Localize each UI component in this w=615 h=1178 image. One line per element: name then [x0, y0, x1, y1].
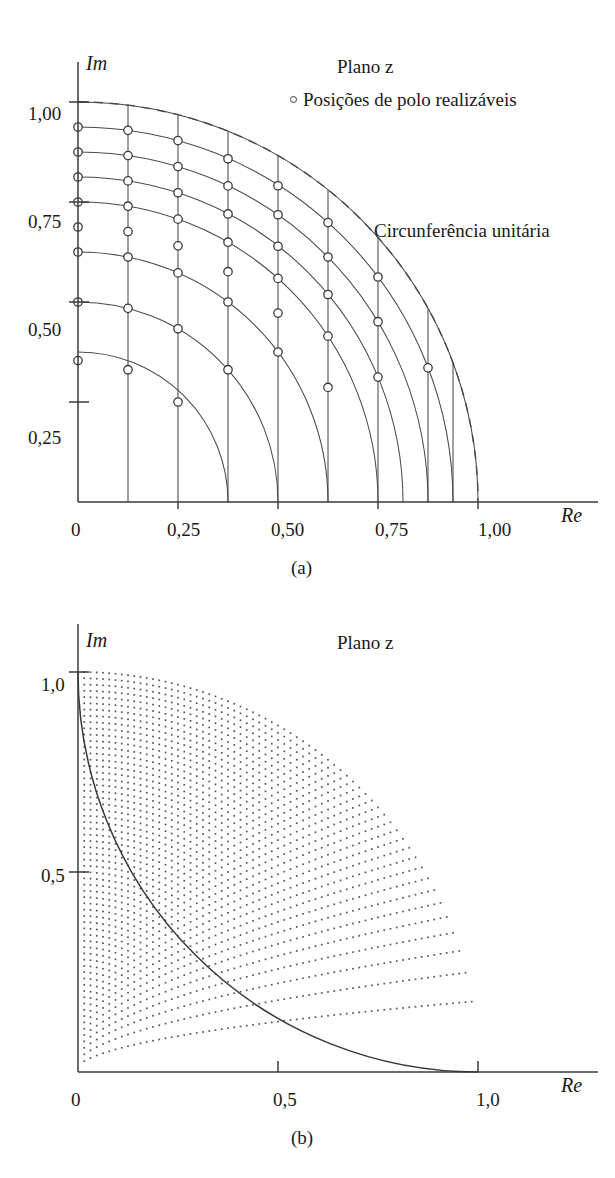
figure-b-y-tick-1: 1,0: [41, 675, 65, 694]
open-circle-marker-icon: [290, 96, 297, 103]
im-symbol: Im: [86, 629, 107, 651]
figure-a-unit-circle-annotation: Circunferência unitária: [374, 221, 550, 240]
figure-b-x-tick-2: 0,5: [273, 1090, 297, 1109]
re-symbol: Re: [561, 504, 582, 526]
figure-a-x-tick-2: 0,25: [167, 520, 200, 539]
figure-b-plot: [0, 570, 615, 1178]
im-symbol: Im: [86, 52, 107, 74]
figure-b-plane-title: Plano z: [337, 633, 393, 652]
figure-b-y-tick-2: 0,5: [41, 866, 65, 885]
figure-a-y-axis-name: Im: [86, 53, 107, 73]
figure-page: Im Re Plano z Posições de polo realizáve…: [0, 0, 615, 1178]
figure-a-legend-label: Posições de polo realizáveis: [303, 90, 517, 109]
re-symbol: Re: [561, 1074, 582, 1096]
figure-b-caption: (b): [291, 1128, 313, 1147]
figure-a-y-tick-2: 0,75: [28, 212, 61, 231]
figure-a: Im Re Plano z Posições de polo realizáve…: [0, 0, 615, 595]
figure-a-y-tick-1: 1,00: [28, 104, 61, 123]
figure-a-y-tick-4: 0,25: [28, 428, 61, 447]
figure-a-y-tick-3: 0,50: [28, 320, 61, 339]
figure-a-x-axis-name: Re: [561, 505, 582, 525]
figure-a-x-tick-5: 1,00: [478, 520, 511, 539]
figure-b-x-tick-1: 0: [71, 1090, 81, 1109]
figure-b-x-axis-name: Re: [561, 1075, 582, 1095]
figure-a-x-tick-3: 0,50: [271, 520, 304, 539]
figure-a-x-tick-1: 0: [71, 520, 81, 539]
figure-b: Im Re Plano z 1,0 0,5 0 0,5 1,0 (b): [0, 570, 615, 1178]
figure-b-y-axis-name: Im: [86, 630, 107, 650]
figure-a-x-tick-4: 0,75: [375, 520, 408, 539]
figure-b-x-tick-3: 1,0: [476, 1090, 500, 1109]
figure-a-plane-title: Plano z: [337, 57, 393, 76]
